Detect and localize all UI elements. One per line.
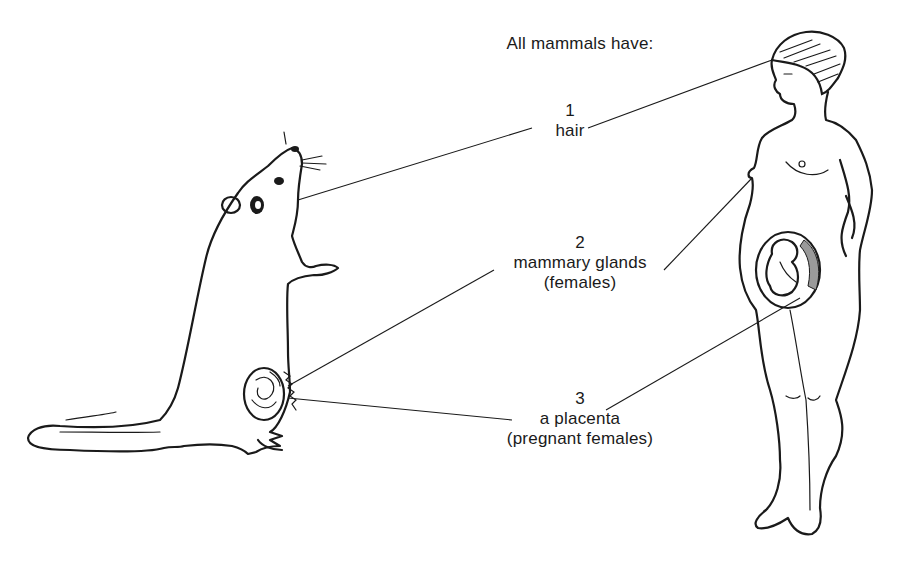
- feature-placenta-label: 3 a placenta (pregnant females): [470, 389, 690, 449]
- feature-mammary-glands-label: 2 mammary glands (females): [480, 233, 680, 293]
- figure-title: All mammals have:: [480, 34, 680, 54]
- feature-note: (pregnant females): [470, 429, 690, 449]
- feature-name: mammary glands: [480, 253, 680, 273]
- mammal-characteristics-diagram: All mammals have: 1 hair 2 mammary gland…: [0, 0, 905, 563]
- feature-number: 2: [480, 233, 680, 253]
- feature-hair-label: 1 hair: [530, 101, 610, 141]
- pregnant-woman-illustration: [740, 32, 872, 535]
- feature-number: 1: [530, 101, 610, 121]
- feature-number: 3: [470, 389, 690, 409]
- feature-name: a placenta: [470, 409, 690, 429]
- feature-note: (females): [480, 273, 680, 293]
- fetus-in-womb-icon: [756, 232, 820, 308]
- feature-name: hair: [530, 121, 610, 141]
- rat-illustration: [28, 132, 338, 454]
- diagram-artwork: [0, 0, 905, 563]
